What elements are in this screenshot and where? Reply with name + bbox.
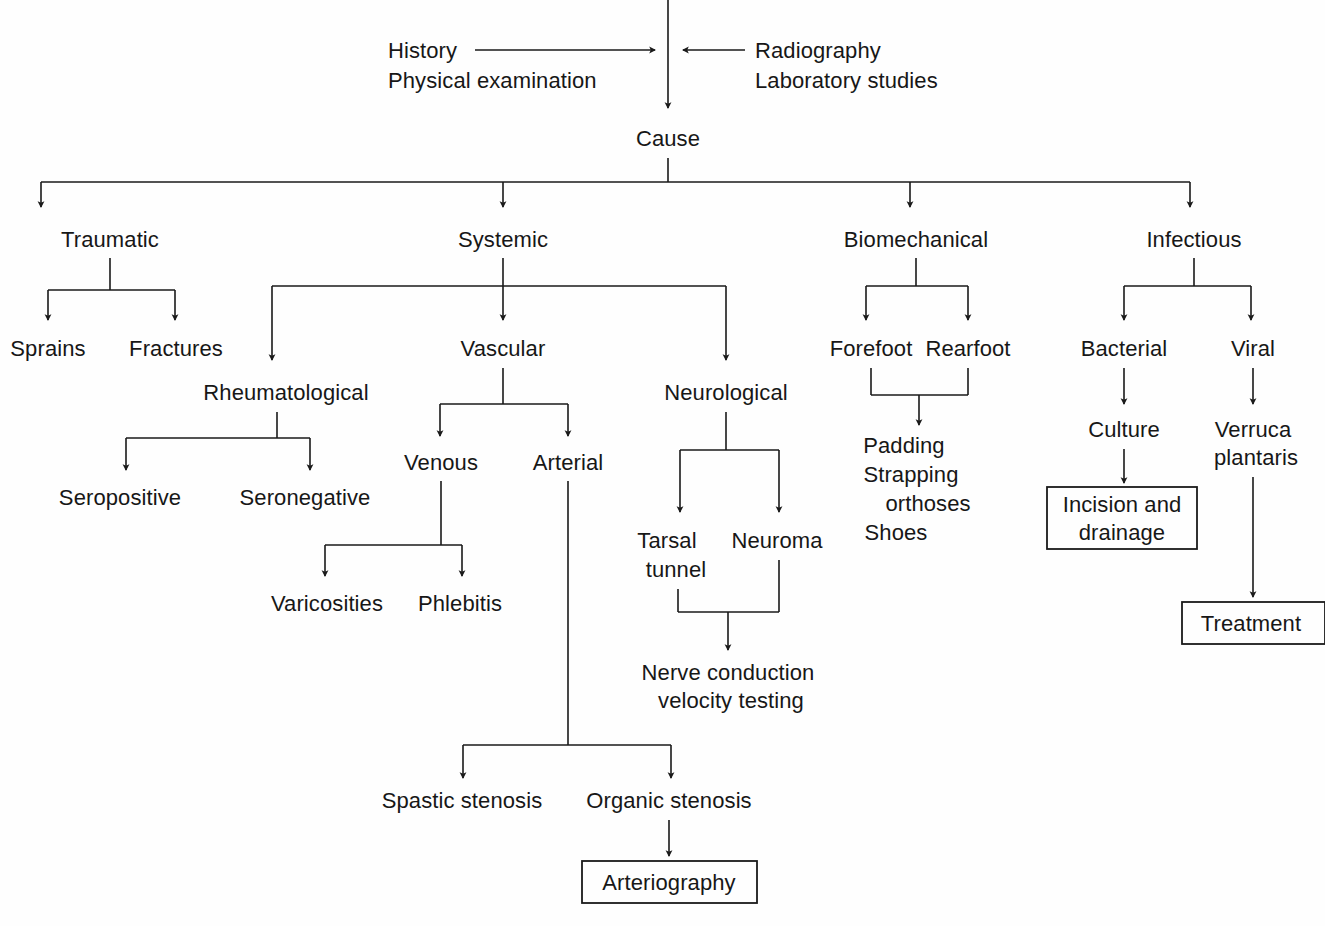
organic-stenosis-node: Organic stenosis: [586, 788, 751, 813]
biomechanical-node: Biomechanical: [844, 227, 988, 252]
arterial-node: Arterial: [533, 450, 604, 475]
biomechanical-subtree: Forefoot Rearfoot Padding Strapping orth…: [830, 258, 1011, 545]
radiography-label: Radiography: [755, 38, 881, 63]
traumatic-subtree: Sprains Fractures: [10, 258, 223, 361]
shoes-node: Shoes: [865, 520, 928, 545]
strapping-node: Strapping: [863, 462, 958, 487]
neuroma-node: Neuroma: [731, 528, 823, 553]
phlebitis-node: Phlebitis: [418, 591, 502, 616]
verruca-node-line1: Verruca: [1215, 417, 1292, 442]
nerve-conduction-node-line1: Nerve conduction: [642, 660, 815, 685]
vascular-subtree: Venous Arterial: [404, 368, 603, 475]
input-section: History Physical examination Radiography…: [388, 38, 938, 93]
root-node-group: Cause: [41, 0, 1190, 207]
history-label: History: [388, 38, 457, 63]
incision-drainage-line1: Incision and: [1063, 492, 1182, 517]
infectious-subtree: Bacterial Viral Culture Incision and dra…: [1047, 258, 1325, 644]
sprains-node: Sprains: [10, 336, 85, 361]
verruca-node-line2: plantaris: [1214, 445, 1298, 470]
traumatic-node: Traumatic: [61, 227, 159, 252]
systemic-node: Systemic: [458, 227, 548, 252]
venous-node: Venous: [404, 450, 478, 475]
tarsal-tunnel-node-line2: tunnel: [646, 557, 707, 582]
neurological-subtree: Tarsal tunnel Neuroma Nerve conduction v…: [637, 412, 823, 713]
physical-examination-label: Physical examination: [388, 68, 597, 93]
rheumatological-node: Rheumatological: [203, 380, 368, 405]
diagram-canvas: History Physical examination Radiography…: [0, 0, 1325, 926]
incision-drainage-line2: drainage: [1079, 520, 1165, 545]
level1-nodes: Traumatic Systemic Biomechanical Infecti…: [61, 227, 1242, 252]
rearfoot-node: Rearfoot: [925, 336, 1010, 361]
seropositive-node: Seropositive: [59, 485, 181, 510]
treatment-node: Treatment: [1201, 611, 1301, 636]
seronegative-node: Seronegative: [240, 485, 371, 510]
padding-node: Padding: [863, 433, 944, 458]
flowchart-diagram: History Physical examination Radiography…: [0, 0, 1325, 926]
spastic-stenosis-node: Spastic stenosis: [382, 788, 543, 813]
varicosities-node: Varicosities: [271, 591, 383, 616]
culture-node: Culture: [1088, 417, 1160, 442]
arteriography-node: Arteriography: [602, 870, 735, 895]
bacterial-node: Bacterial: [1081, 336, 1168, 361]
fractures-node: Fractures: [129, 336, 223, 361]
rheumatological-subtree: Seropositive Seronegative: [59, 412, 371, 510]
tarsal-tunnel-node-line1: Tarsal: [637, 528, 696, 553]
neurological-node: Neurological: [664, 380, 788, 405]
infectious-node: Infectious: [1146, 227, 1241, 252]
forefoot-node: Forefoot: [830, 336, 913, 361]
systemic-subtree: Rheumatological Vascular Neurological: [203, 258, 787, 405]
laboratory-studies-label: Laboratory studies: [755, 68, 938, 93]
vascular-node: Vascular: [461, 336, 546, 361]
nerve-conduction-node-line2: velocity testing: [658, 688, 804, 713]
viral-node: Viral: [1231, 336, 1275, 361]
orthoses-node: orthoses: [885, 491, 970, 516]
cause-node: Cause: [636, 126, 700, 151]
